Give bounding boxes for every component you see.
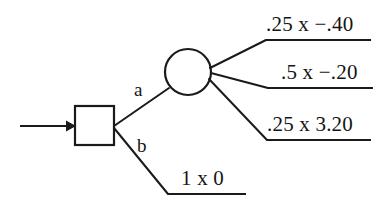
outcome-4-label: 1 x 0 [181,168,224,189]
outcome-1-branch-line [210,40,266,68]
outcome-2-label: .5 x −.20 [281,62,358,83]
outcome-3-branch-line [209,79,267,140]
decision-tree-diagram: .25 x −.40 .5 x −.20 .25 x 3.20 1 x 0 a … [0,0,379,211]
chance-node-circle [165,49,211,95]
outcome-3-label: .25 x 3.20 [267,114,353,135]
outcome-2-branch-line [211,73,268,88]
outcome-1-label: .25 x −.40 [266,14,353,35]
branch-b-label: b [137,136,147,155]
entry-arrow-icon [20,121,76,132]
branch-a-label: a [134,80,142,99]
decision-node-square [75,106,114,145]
